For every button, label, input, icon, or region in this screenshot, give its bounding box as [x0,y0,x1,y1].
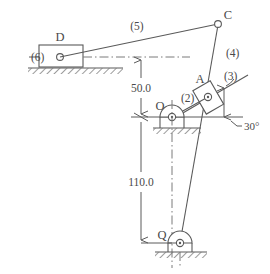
joint-A [204,93,211,100]
joint-label-C: C [224,8,232,22]
diagram-canvas: 50.0 110.0 30° D C A O Q (6) (5) (4) (3)… [0,0,270,274]
link-label-6: (6) [31,51,45,64]
joint-label-Q: Q [157,228,166,242]
joint-label-A: A [195,72,204,86]
link-label-3: (3) [224,70,238,83]
joint-C [215,21,222,28]
mechanism-diagram: 50.0 110.0 30° D C A O Q (6) (5) (4) (3)… [0,0,270,274]
dimension-50: 50.0 [131,60,151,121]
dimension-110-label: 110.0 [128,176,154,188]
joint-label-O: O [155,99,164,113]
joint-label-D: D [55,30,64,44]
ground-support-D [28,68,123,74]
link-label-5: (5) [130,20,144,33]
link-label-2: (2) [181,92,195,105]
angle-30-indicator: 30° [224,79,259,132]
dimension-50-label: 50.0 [131,82,151,94]
dimension-110: 110.0 [128,122,172,243]
slider-block-D [39,45,83,67]
link-label-4: (4) [226,47,240,60]
angle-30-label: 30° [244,120,259,132]
